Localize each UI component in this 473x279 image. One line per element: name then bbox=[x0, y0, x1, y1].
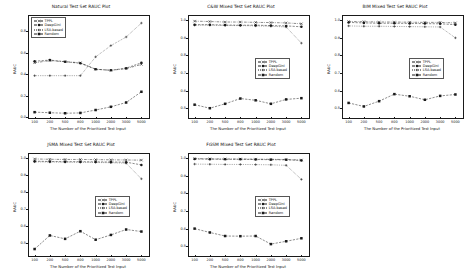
chart-legend: TPPLDeepGiniLSA-basedRandom bbox=[255, 58, 290, 79]
legend-item-random[interactable]: Random bbox=[34, 32, 63, 36]
chart-legend: TPPLDeepGiniLSA-basedRandom bbox=[95, 196, 130, 217]
chart-panel: JSMA Mixed Test Set RAUC PlotRAUCThe Num… bbox=[6, 142, 156, 276]
chart-legend: TPPLDeepGiniLSA-basedRandom bbox=[409, 58, 444, 79]
chart-panel: FGSM Mixed Test Set RAUC PlotRAUCThe Num… bbox=[166, 142, 316, 276]
chart-legend: TPPLDeepGiniLSA-basedRandom bbox=[31, 17, 66, 38]
series-layer bbox=[320, 4, 470, 138]
legend-item-random[interactable]: Random bbox=[258, 211, 287, 215]
legend-item-random[interactable]: Random bbox=[412, 73, 441, 77]
series-layer bbox=[6, 4, 156, 138]
rauc-plot-figure: Natural Test Set RAUC PlotRAUCThe Number… bbox=[0, 0, 473, 279]
series-layer bbox=[6, 142, 156, 276]
legend-swatch bbox=[258, 73, 267, 77]
legend-label: Random bbox=[43, 32, 59, 36]
legend-swatch bbox=[34, 32, 43, 36]
series-layer bbox=[166, 142, 316, 276]
legend-item-random[interactable]: Random bbox=[98, 211, 127, 215]
legend-label: Random bbox=[421, 73, 437, 77]
legend-item-random[interactable]: Random bbox=[258, 73, 287, 77]
chart-panel: C&W Mixed Test Set RAUC PlotRAUCThe Numb… bbox=[166, 4, 316, 138]
chart-panel: Natural Test Set RAUC PlotRAUCThe Number… bbox=[6, 4, 156, 138]
series-layer bbox=[166, 4, 316, 138]
legend-label: Random bbox=[267, 211, 283, 215]
chart-panel: BIM Mixed Test Set RAUC PlotRAUCThe Numb… bbox=[320, 4, 470, 138]
legend-swatch bbox=[98, 211, 107, 215]
legend-label: Random bbox=[107, 211, 123, 215]
chart-legend: TPPLDeepGiniLSA-basedRandom bbox=[255, 196, 290, 217]
legend-swatch bbox=[412, 73, 421, 77]
legend-swatch bbox=[258, 211, 267, 215]
legend-label: Random bbox=[267, 73, 283, 77]
